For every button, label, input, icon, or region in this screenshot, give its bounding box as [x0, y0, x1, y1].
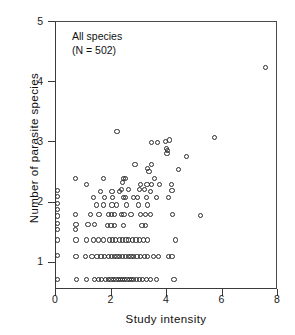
data-point — [128, 212, 133, 217]
x-tick-label: 6 — [212, 294, 232, 305]
data-point — [166, 195, 171, 200]
y-tick-label: 5 — [25, 16, 43, 27]
data-point — [73, 176, 78, 181]
data-point — [121, 212, 126, 217]
data-point — [212, 135, 217, 140]
data-point — [137, 187, 142, 192]
data-point — [143, 223, 148, 228]
annotation-line-1: All species — [72, 29, 122, 43]
data-point — [184, 154, 189, 159]
data-point — [149, 140, 154, 145]
data-point — [73, 237, 78, 242]
annotation-line-2: (N = 502) — [72, 43, 122, 57]
data-point — [96, 212, 101, 217]
data-point — [114, 202, 119, 207]
data-point — [132, 162, 137, 167]
x-tick-label: 0 — [45, 294, 65, 305]
data-point — [157, 182, 162, 187]
data-point — [73, 254, 78, 259]
data-point — [109, 189, 114, 194]
data-point — [55, 237, 60, 242]
data-point — [112, 212, 117, 217]
data-point — [173, 237, 178, 242]
data-point — [156, 254, 161, 259]
data-point — [148, 277, 153, 282]
data-point — [83, 254, 88, 259]
data-point — [102, 195, 107, 200]
data-point — [98, 189, 103, 194]
data-point — [73, 227, 78, 232]
data-point — [152, 176, 157, 181]
data-point — [110, 195, 115, 200]
data-point — [88, 212, 93, 217]
data-point — [167, 137, 172, 142]
data-point — [55, 194, 60, 199]
data-point — [112, 223, 117, 228]
data-point — [114, 129, 119, 134]
data-point — [149, 182, 154, 187]
data-point — [145, 202, 150, 207]
x-tick-label: 8 — [267, 294, 287, 305]
data-point — [169, 254, 174, 259]
data-point — [92, 222, 97, 227]
data-point — [148, 189, 153, 194]
data-point — [101, 237, 106, 242]
data-point — [123, 195, 128, 200]
data-point — [91, 195, 96, 200]
data-point — [171, 277, 176, 282]
data-point — [148, 212, 153, 217]
data-point — [198, 213, 203, 218]
data-point — [55, 277, 60, 282]
data-point — [149, 162, 154, 167]
data-point — [120, 180, 125, 185]
data-point — [85, 222, 90, 227]
data-point — [73, 212, 78, 217]
data-point — [101, 202, 106, 207]
data-point — [169, 188, 174, 193]
data-point — [124, 202, 129, 207]
y-tick-mark — [48, 81, 55, 82]
scatter-plot-figure: 12345 02468 All species (N = 502) Study … — [0, 0, 295, 335]
data-point — [176, 167, 181, 172]
y-axis-title: Number of parasite species — [28, 28, 40, 268]
data-point — [55, 207, 60, 212]
data-point — [55, 221, 60, 226]
data-point — [55, 253, 60, 258]
data-point — [84, 277, 89, 282]
data-point — [84, 237, 89, 242]
y-tick-mark — [48, 141, 55, 142]
data-point — [145, 237, 150, 242]
x-axis-title: Study intensity — [55, 313, 277, 325]
data-point — [263, 65, 268, 70]
data-point — [101, 176, 106, 181]
data-point — [154, 195, 159, 200]
y-tick-mark — [48, 202, 55, 203]
data-point — [155, 140, 160, 145]
x-tick-label: 4 — [156, 294, 176, 305]
data-point — [117, 189, 122, 194]
data-point — [144, 195, 149, 200]
y-tick-mark — [48, 21, 55, 22]
data-point — [146, 169, 151, 174]
x-tick-label: 2 — [101, 294, 121, 305]
data-point — [142, 187, 147, 192]
y-tick-mark — [48, 262, 55, 263]
data-point — [55, 201, 60, 206]
plot-area — [55, 21, 277, 289]
data-point — [55, 213, 60, 218]
data-point — [169, 182, 174, 187]
data-point-layer — [56, 22, 276, 288]
data-point — [121, 223, 126, 228]
data-point — [135, 195, 140, 200]
data-point — [126, 187, 131, 192]
plot-annotation: All species (N = 502) — [72, 29, 122, 57]
data-point — [154, 277, 159, 282]
data-point — [145, 254, 150, 259]
data-point — [136, 202, 141, 207]
data-point — [55, 227, 60, 232]
data-point — [74, 277, 79, 282]
data-point — [73, 222, 78, 227]
data-point — [170, 212, 175, 217]
data-point — [55, 188, 60, 193]
data-point — [84, 182, 89, 187]
